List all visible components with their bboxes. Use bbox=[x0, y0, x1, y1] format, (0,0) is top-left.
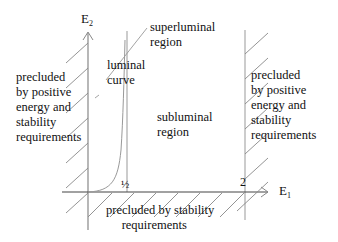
e1-axis-label: E1 bbox=[279, 183, 291, 200]
bottom-precluded-label: precluded by stability requirements bbox=[106, 203, 214, 233]
tick-two-label: 2 bbox=[240, 175, 246, 190]
subluminal-region-label: subluminal region bbox=[157, 110, 213, 140]
superluminal-region-label: superluminal region bbox=[150, 20, 215, 50]
left-precluded-label: precluded by positive energy and stabili… bbox=[16, 70, 81, 145]
energy-condition-diagram: E2 E1 ½ 2 superluminal region luminal cu… bbox=[0, 0, 338, 242]
right-precluded-label: precluded by positive energy and stabili… bbox=[251, 68, 316, 143]
e2-axis-label: E2 bbox=[81, 11, 93, 28]
tick-half-label: ½ bbox=[121, 177, 129, 192]
tick-mark bbox=[95, 95, 99, 98]
luminal-curve-label: luminal curve bbox=[107, 58, 145, 88]
